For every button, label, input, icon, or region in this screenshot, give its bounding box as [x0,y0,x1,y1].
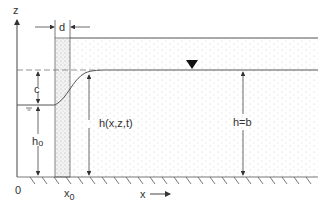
d-label: d [59,21,65,33]
aquifer-region [70,38,318,177]
z-axis-label: z [13,4,19,16]
groundwater-diagram: z 0 x0 x d c ho h(x,z,t) [0,0,330,211]
x0-label: x0 [64,187,75,202]
x-axis-label: x [140,188,146,200]
h-equals-b-label: h=b [233,116,252,128]
ground-hatching [17,177,318,184]
wall [55,38,70,177]
origin-label: 0 [15,184,21,196]
h-xzt-label: h(x,z,t) [99,117,133,129]
h0-label: ho [32,135,43,148]
water-level-mark-left [26,108,32,110]
c-label: c [34,83,40,95]
